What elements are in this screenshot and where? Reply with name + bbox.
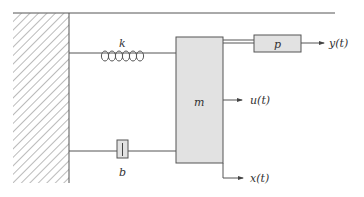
damper bbox=[69, 140, 176, 158]
mass-to-p-link bbox=[223, 40, 254, 43]
spring bbox=[69, 51, 176, 61]
mass-spring-damper-diagram: k b m p y(t) u(t) x(t) bbox=[0, 0, 364, 197]
spring-label: k bbox=[119, 37, 126, 50]
y-output-label: y(t) bbox=[328, 37, 348, 50]
damper-label: b bbox=[119, 166, 126, 179]
x-output-arrow bbox=[223, 163, 243, 178]
wall bbox=[13, 13, 69, 183]
u-input-label: u(t) bbox=[250, 94, 270, 107]
x-output-label: x(t) bbox=[250, 172, 269, 185]
p-label: p bbox=[274, 38, 281, 51]
mass-label: m bbox=[194, 96, 204, 109]
